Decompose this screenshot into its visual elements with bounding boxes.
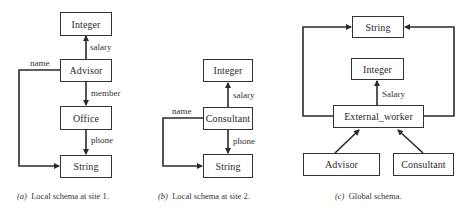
a-string-node: String [60,155,112,178]
c-consultant-node: Consultant [393,153,454,176]
b-phone-label: phone [233,136,255,146]
b-string-node: String [203,154,253,178]
a-advisor-node: Advisor [60,59,112,82]
c-external-worker-node: External_worker [333,105,424,128]
b-caption: (b) Local schema at site 2. [158,191,250,201]
c-integer-node: Integer [351,58,404,80]
b-consultant-node: Consultant [203,107,253,130]
a-caption: (a) Local schema at site 1. [17,191,109,201]
c-salary-label: Salary [382,89,405,99]
a-name-edge [19,70,60,166]
a-caption-tag: (a) [17,191,27,201]
c-advisor-node: Advisor [303,153,380,176]
c-consultant-isa-edge [398,130,423,153]
c-caption-tag: (c) [335,191,344,201]
b-salary-label: salary [233,90,255,100]
a-office-node: Office [60,106,112,130]
a-member-label: member [91,88,121,98]
b-caption-text: Local schema at site 2. [172,191,250,201]
b-caption-tag: (b) [158,191,168,201]
c-string-node: String [352,16,404,38]
a-salary-label: salary [90,42,112,52]
c-caption-text: Global schema. [349,191,402,201]
c-advisor-isa-edge [335,130,359,153]
c-right-string-edge [405,27,454,116]
b-integer-node: Integer [203,59,253,82]
b-name-edge [163,118,203,166]
a-integer-node: Integer [60,12,112,36]
b-name-label: name [172,106,192,116]
a-name-label: name [30,58,50,68]
a-caption-text: Local schema at site 1. [31,191,109,201]
c-caption: (c) Global schema. [335,191,402,201]
c-left-string-edge [303,27,351,116]
a-phone-label: phone [91,135,113,145]
